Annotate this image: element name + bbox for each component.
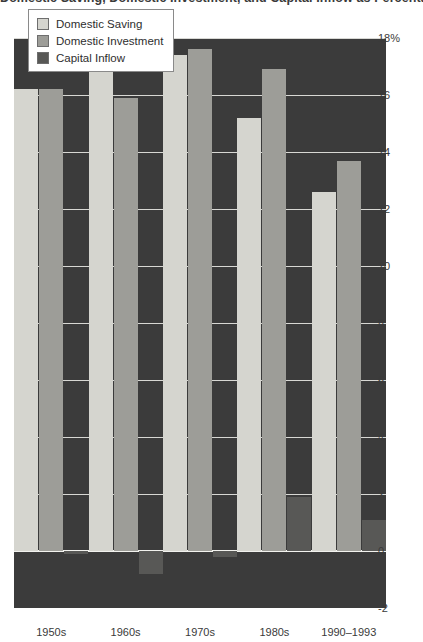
x-axis-label-1980s: 1980s: [259, 626, 289, 638]
x-axis-label-19901993: 1990–1993: [321, 626, 376, 638]
bar-1980s-domestic-investment: [262, 69, 286, 551]
x-axis-label-1950s: 1950s: [36, 626, 66, 638]
bar-1950s-domestic-investment: [39, 89, 63, 551]
x-axis-label-1960s: 1960s: [111, 626, 141, 638]
y-tick-label: 16: [378, 89, 390, 101]
y-tick-label: 8: [378, 317, 384, 329]
legend-swatch-icon: [37, 18, 49, 30]
bar-1960s-capital-inflow: [139, 551, 163, 574]
bar-19901993-domestic-saving: [312, 192, 336, 551]
bar-1980s-capital-inflow: [287, 497, 311, 551]
below-zero-background: [14, 553, 386, 608]
bar-1970s-capital-inflow: [213, 551, 237, 557]
bar-1950s-capital-inflow: [64, 551, 88, 554]
y-tick-label: 0: [378, 545, 384, 557]
y-tick-label: 10: [378, 260, 390, 272]
y-tick-label: 2: [378, 488, 384, 500]
chart-title: Domestic Saving, Domestic Investment, an…: [0, 0, 423, 5]
bar-19901993-domestic-investment: [337, 161, 361, 551]
legend-item-label: Domestic Investment: [56, 35, 163, 47]
bar-1970s-domestic-saving: [163, 55, 187, 551]
x-axis-label-1970s: 1970s: [185, 626, 215, 638]
bar-1980s-domestic-saving: [237, 118, 261, 551]
legend-item-domestic-investment: Domestic Investment: [37, 32, 163, 49]
legend-swatch-icon: [37, 35, 49, 47]
y-tick-label: 12: [378, 203, 390, 215]
bar-1970s-domestic-investment: [188, 49, 212, 551]
legend-item-label: Domestic Saving: [56, 18, 142, 30]
bar-1960s-domestic-saving: [89, 72, 113, 551]
chart-legend: Domestic Saving Domestic Investment Capi…: [28, 9, 174, 72]
chart-plot-wrapper: [14, 38, 386, 608]
y-tick-label: 18%: [378, 32, 400, 44]
legend-item-label: Capital Inflow: [56, 52, 125, 64]
bar-1960s-domestic-investment: [114, 98, 138, 551]
legend-item-capital-inflow: Capital Inflow: [37, 49, 163, 66]
legend-swatch-icon: [37, 52, 49, 64]
y-tick-label: 6: [378, 374, 384, 386]
legend-item-domestic-saving: Domestic Saving: [37, 15, 163, 32]
y-tick-label: 14: [378, 146, 390, 158]
y-tick-label: 4: [378, 431, 384, 443]
bar-1950s-domestic-saving: [14, 89, 38, 551]
y-tick-label: -2: [378, 602, 388, 614]
